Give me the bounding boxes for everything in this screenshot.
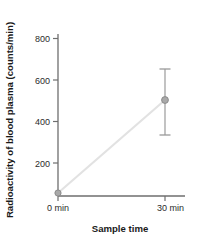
x-tick-label-0: 0 min xyxy=(47,203,69,213)
line-chart-plot: Radioactivity of blood plasma (counts/mi… xyxy=(0,0,200,248)
y-tick-label-600: 600 xyxy=(35,76,50,86)
x-axis-label: Sample time xyxy=(92,223,149,234)
y-tick-label-400: 400 xyxy=(35,117,50,127)
data-point-marker-30min xyxy=(162,97,169,104)
y-tick-label-200: 200 xyxy=(35,159,50,169)
chart-figure: Radioactivity of blood plasma (counts/mi… xyxy=(0,0,200,248)
y-tick-label-800: 800 xyxy=(35,34,50,44)
data-point-marker-0min xyxy=(55,190,61,196)
x-tick-label-30: 30 min xyxy=(157,203,184,213)
y-axis-label: Radioactivity of blood plasma (counts/mi… xyxy=(4,22,15,218)
